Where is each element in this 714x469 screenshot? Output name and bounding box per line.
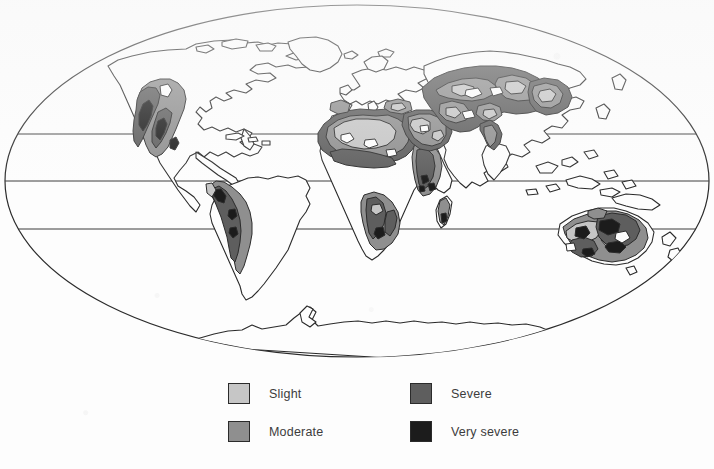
arabia-void <box>420 125 429 132</box>
sahara-void-3 <box>386 149 397 157</box>
legend-swatch-slight <box>228 383 250 404</box>
legend-item-severe: Severe <box>410 383 492 404</box>
legend: Slight Moderate Severe Very severe <box>228 383 558 453</box>
legend-swatch-severe <box>410 383 432 404</box>
figure-root: Slight Moderate Severe Very severe <box>0 0 714 469</box>
horn-vs-2 <box>428 183 436 191</box>
horn-vs-3 <box>419 186 425 192</box>
aus-void-2 <box>566 243 576 251</box>
legend-swatch-moderate <box>228 421 250 442</box>
aus-moderate-top <box>588 208 607 219</box>
legend-item-moderate: Moderate <box>228 421 323 442</box>
mad-vs <box>441 213 447 223</box>
legend-item-very-severe: Very severe <box>410 421 519 442</box>
legend-label-moderate: Moderate <box>269 425 323 439</box>
legend-label-slight: Slight <box>269 387 301 401</box>
legend-swatch-very-severe <box>410 421 432 442</box>
casia-void-3 <box>462 110 475 119</box>
legend-label-severe: Severe <box>451 387 492 401</box>
legend-label-very-severe: Very severe <box>451 425 519 439</box>
legend-item-slight: Slight <box>228 383 301 404</box>
